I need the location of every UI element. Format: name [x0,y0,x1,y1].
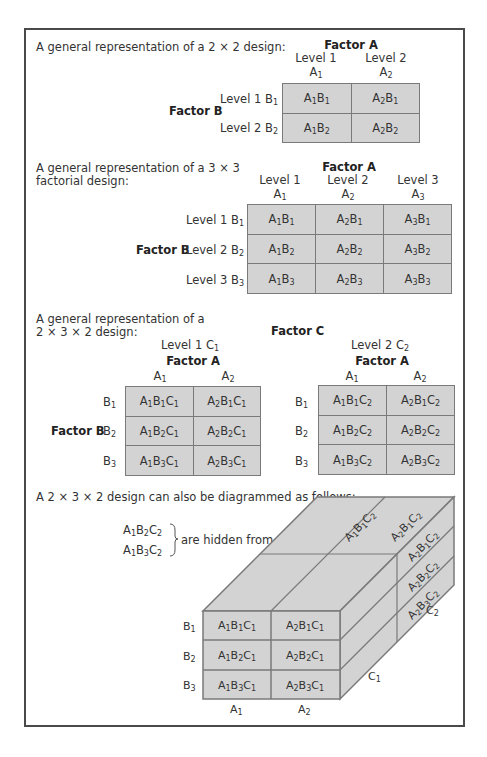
svg-text:C1: C1 [368,670,381,684]
svg-text:A1B3C1: A1B3C1 [218,679,256,693]
svg-text:A2B1C1: A2B1C1 [286,619,324,633]
svg-text:A1: A1 [230,703,243,717]
svg-text:A2: A2 [298,703,311,717]
brace-icon [170,524,178,556]
svg-text:A2B2C1: A2B2C1 [286,649,324,663]
svg-text:B3: B3 [183,679,196,693]
svg-text:A1B2C1: A1B2C1 [218,649,256,663]
box-diagram: A1B1C1 A2B1C1 A1B2C1 A2B2C1 A1B3C1 A2B3C… [0,0,487,757]
svg-text:A2B3C1: A2B3C1 [286,679,324,693]
svg-text:A1B1C1: A1B1C1 [218,619,256,633]
svg-text:B1: B1 [183,620,196,634]
svg-text:B2: B2 [183,650,196,664]
